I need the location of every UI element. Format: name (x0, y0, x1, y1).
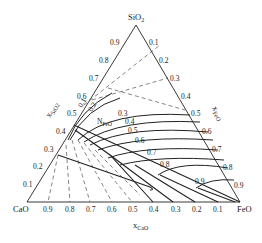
svg-text:0.6: 0.6 (202, 127, 212, 136)
triangle-frame (27, 25, 240, 202)
svg-text:0.2: 0.2 (86, 100, 99, 113)
ternary-diagram: SiO2 CaO FeO xSiO2 xFeO xCaO 0.9 0.8 0.7… (0, 0, 262, 243)
svg-text:0.9: 0.9 (43, 205, 53, 214)
svg-text:0.6: 0.6 (107, 205, 117, 214)
svg-text:0.1: 0.1 (213, 205, 223, 214)
svg-text:0.8: 0.8 (160, 160, 170, 169)
boundary-lines (58, 125, 240, 202)
bottom-ticks: 0.9 0.8 0.7 0.6 0.5 0.4 0.3 0.2 0.1 (43, 205, 223, 214)
svg-text:0.4: 0.4 (56, 127, 66, 136)
svg-text:0.2: 0.2 (192, 205, 202, 214)
left-axis-label: xSiO2 (43, 100, 61, 120)
svg-text:0.8: 0.8 (65, 205, 75, 214)
svg-text:0.2: 0.2 (159, 56, 169, 65)
svg-text:0.7: 0.7 (147, 148, 157, 157)
svg-text:0.5: 0.5 (128, 205, 138, 214)
svg-text:0.4: 0.4 (125, 117, 135, 126)
svg-text:0.2: 0.2 (33, 162, 43, 171)
svg-text:0.3: 0.3 (171, 205, 181, 214)
svg-text:0.8: 0.8 (99, 56, 109, 65)
svg-text:0.8: 0.8 (223, 163, 233, 172)
dashed-lines (48, 45, 185, 202)
svg-text:0.1: 0.1 (149, 38, 159, 47)
left-ticks: 0.9 0.8 0.7 0.6 0.5 0.4 0.3 0.2 0.1 (23, 38, 120, 189)
svg-text:0.3: 0.3 (44, 145, 54, 154)
svg-text:0.7: 0.7 (212, 145, 222, 154)
bottom-axis-label: xCaO (133, 220, 149, 231)
svg-text:0.9: 0.9 (195, 177, 205, 186)
svg-text:0.4: 0.4 (181, 92, 191, 101)
svg-text:0.5: 0.5 (191, 109, 201, 118)
iso-label-nfeo: NFeO (97, 117, 112, 127)
svg-text:0.3: 0.3 (170, 74, 180, 83)
svg-text:0.7: 0.7 (86, 205, 96, 214)
svg-text:0.5: 0.5 (67, 109, 77, 118)
svg-text:0.9: 0.9 (234, 181, 244, 190)
right-axis-label: xFeO (209, 104, 226, 123)
svg-text:0.7: 0.7 (89, 74, 99, 83)
svg-text:0.1: 0.1 (23, 180, 33, 189)
svg-text:0.4: 0.4 (149, 205, 159, 214)
vertex-left-label: CaO (13, 204, 29, 214)
svg-text:0.6: 0.6 (135, 136, 145, 145)
svg-text:0.9: 0.9 (110, 38, 120, 47)
svg-text:0.5: 0.5 (128, 126, 138, 135)
vertex-top-label: SiO2 (128, 12, 144, 23)
vertex-right-label: FeO (237, 204, 252, 214)
